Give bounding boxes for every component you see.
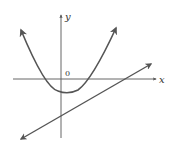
line-curve: [21, 64, 151, 139]
y-axis-label: y: [64, 11, 71, 22]
parabola-curve: [21, 28, 116, 93]
graph-figure: x y 0: [0, 0, 170, 150]
x-axis-label: x: [159, 74, 165, 85]
origin-label: 0: [65, 69, 70, 78]
